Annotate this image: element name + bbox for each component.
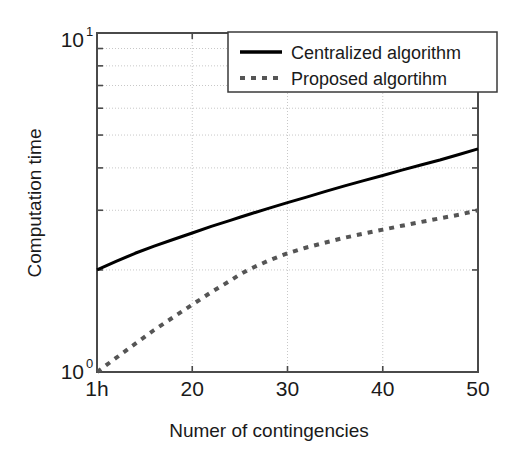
y-tick-label-top-exponent: 1 bbox=[86, 24, 93, 39]
x-axis-title: Numer of contingencies bbox=[169, 420, 369, 441]
x-tick-label-30: 30 bbox=[276, 377, 299, 400]
y-axis-title: Computation time bbox=[24, 129, 45, 278]
y-tick-label-top-mantissa: 10 bbox=[61, 28, 84, 51]
legend-label-centralized: Centralized algorithm bbox=[291, 43, 461, 63]
legend: Centralized algorithm Proposed algortihm bbox=[228, 32, 497, 92]
x-tick-label-20: 20 bbox=[181, 377, 204, 400]
figure-container: 10 1 10 0 1h20304050 Numer of contingenc… bbox=[0, 0, 520, 453]
y-tick-label-bottom-mantissa: 10 bbox=[61, 360, 84, 383]
y-tick-label-bottom-exponent: 0 bbox=[86, 356, 93, 371]
line-chart: 10 1 10 0 1h20304050 Numer of contingenc… bbox=[0, 0, 520, 453]
x-tick-label-50: 50 bbox=[466, 377, 489, 400]
x-tick-label-1h: 1h bbox=[85, 377, 108, 400]
legend-label-proposed: Proposed algortihm bbox=[291, 69, 447, 89]
x-tick-label-40: 40 bbox=[371, 377, 394, 400]
